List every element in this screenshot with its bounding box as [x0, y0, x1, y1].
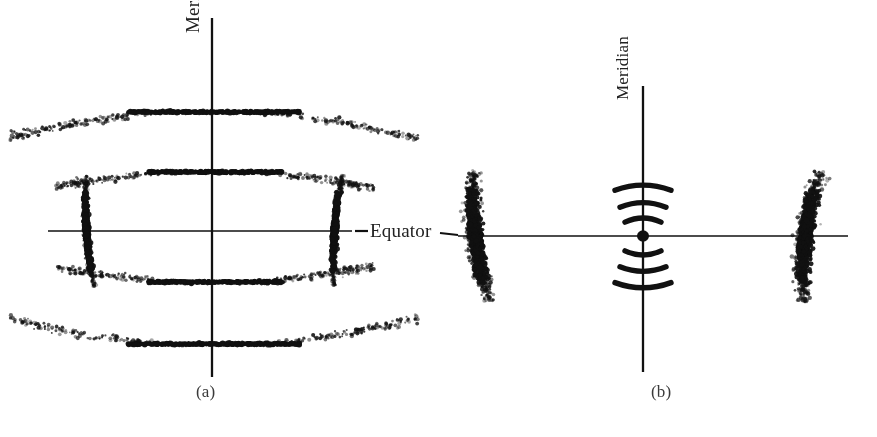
figure-background [0, 0, 877, 437]
figure-container: Meridian Meridian Equator (a) (b) [0, 0, 877, 437]
diffraction-figure-canvas [0, 0, 877, 437]
equator-label: Equator [370, 221, 432, 240]
panel-caption-b: (b) [651, 383, 671, 400]
meridian-label-panel-b: Meridian [614, 36, 631, 100]
meridian-label-panel-a: Meridian [183, 0, 202, 33]
panel-caption-a: (a) [196, 383, 215, 400]
